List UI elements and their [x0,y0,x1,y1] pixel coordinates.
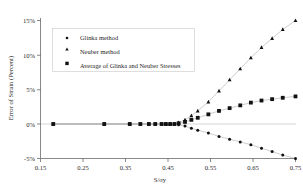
data-point-square [128,122,132,126]
data-point-dot [249,143,252,146]
legend-label: Average of Glinka and Neuber Stresses [80,62,181,69]
chart-container: 15% 10% 5% 0% -5% 0.15 0.25 0.35 0.45 0.… [0,0,303,189]
data-point-dot [281,154,284,157]
data-point-dot [239,140,242,143]
data-point-square [260,99,264,103]
x-tick-label: 0.45 [162,164,174,171]
legend-marker-square-icon [65,62,68,65]
x-tick-label: 0.75 [290,164,302,171]
y-axis-title: Error of Strain (Percent) [7,56,15,120]
x-tick-label: 0.15 [35,164,47,171]
x-tick-label: 0.55 [205,164,217,171]
data-point-square [249,101,253,105]
legend-marker-small-dot-icon [66,37,69,40]
data-point-square [153,122,157,126]
data-point-square [294,95,298,99]
data-point-square [270,97,274,101]
y-tick-label: 5% [26,86,35,93]
data-point-dot [196,129,199,132]
data-point-dot [271,150,274,153]
legend-label: Glinka method [80,34,119,41]
chart-legend: Glinka method Neuber method Average of G… [53,29,195,72]
scatter-chart: 15% 10% 5% 0% -5% 0.15 0.25 0.35 0.45 0.… [0,0,303,189]
data-point-dot [228,138,231,141]
y-tick-label: 0% [26,121,35,128]
data-point-square [238,103,242,107]
data-point-square [177,121,181,125]
data-point-square [102,122,106,126]
data-point-square [228,106,232,110]
data-point-square [281,96,285,100]
data-point-square [168,122,172,126]
data-point-square [160,122,164,126]
data-point-dot [218,135,221,138]
data-point-dot [184,125,187,128]
x-tick-label: 0.35 [120,164,132,171]
data-point-square [206,112,210,116]
data-point-square [51,122,55,126]
data-point-square [147,122,151,126]
x-tick-label: 0.25 [77,164,89,171]
y-tick-label: 10% [23,52,36,59]
data-point-square [189,118,193,122]
y-tick-label: -5% [24,155,35,162]
data-point-dot [260,147,263,150]
legend-label: Neuber method [80,48,120,55]
data-point-square [172,122,176,126]
data-point-dot [294,157,297,160]
x-tick-label: 0.65 [247,164,259,171]
data-point-dot [207,131,210,134]
data-point-dot [190,127,193,130]
data-point-square [164,122,168,126]
y-tick-label: 15% [23,17,36,24]
data-point-square [217,109,221,113]
x-axis-title: S/σy [154,176,167,183]
data-point-square [138,122,142,126]
data-point-square [196,116,200,120]
data-point-square [183,120,187,124]
